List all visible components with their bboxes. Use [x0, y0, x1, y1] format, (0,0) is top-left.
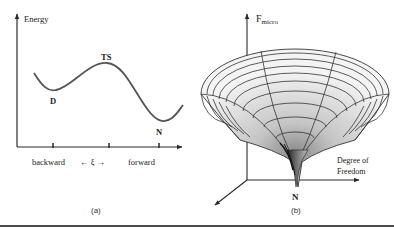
- panel-b-folding-funnel: Fmicro Degree of Freedom N (b): [201, 13, 389, 215]
- caption-a: (a): [91, 206, 101, 215]
- energy-axis-label: Energy: [24, 14, 49, 24]
- bottom-divider: [0, 225, 394, 227]
- label-forward: forward: [128, 157, 156, 167]
- label-ts: TS: [101, 52, 112, 62]
- dof-label-line2: Freedom: [337, 167, 366, 176]
- label-backward: backward: [32, 157, 66, 167]
- dof-label-line1: Degree of: [337, 156, 369, 165]
- label-d: D: [50, 96, 56, 106]
- energy-curve: [34, 63, 183, 121]
- label-xi: ← ξ →: [80, 157, 105, 167]
- label-n-a: N: [156, 127, 163, 137]
- depth-axis: [215, 180, 247, 205]
- free-energy-subscript: micro: [262, 18, 279, 26]
- label-n-b: N: [292, 192, 299, 202]
- figure-canvas: Energy TS D N backward ← ξ → forward (a): [0, 0, 394, 229]
- caption-b: (b): [291, 206, 301, 215]
- panel-a-energy-profile: Energy TS D N backward ← ξ → forward (a): [17, 14, 183, 215]
- free-energy-axis-label: Fmicro: [256, 13, 278, 26]
